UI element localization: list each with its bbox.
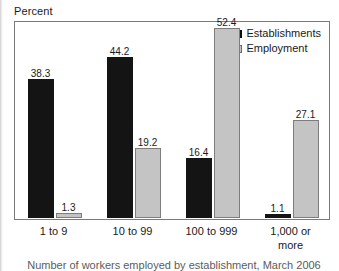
bar-group: 38.31.3 xyxy=(15,22,94,219)
bar-value-label: 19.2 xyxy=(138,137,157,148)
bar-value-label: 1.3 xyxy=(62,202,76,213)
bar: 44.2 xyxy=(107,57,133,218)
plot-area: Establishments Employment 38.31.344.219.… xyxy=(14,21,330,220)
x-tick-label: 1,000 or more xyxy=(251,224,330,252)
bar-group: 1.127.1 xyxy=(252,22,331,219)
bar: 16.4 xyxy=(186,158,212,218)
bar-value-label: 27.1 xyxy=(296,109,315,120)
bar: 52.4 xyxy=(214,28,240,218)
bar-value-label: 52.4 xyxy=(217,17,236,28)
x-tick-label: 100 to 999 xyxy=(172,224,251,238)
bar-value-label: 1.1 xyxy=(271,203,285,214)
y-axis-title: Percent xyxy=(14,5,53,18)
bar: 38.3 xyxy=(28,79,54,218)
x-tick-label: 10 to 99 xyxy=(93,224,172,238)
bar-value-label: 44.2 xyxy=(110,46,129,57)
x-axis-tick-labels: 1 to 910 to 99100 to 9991,000 or more xyxy=(14,224,330,260)
bar-groups: 38.31.344.219.216.452.41.127.1 xyxy=(15,22,329,219)
bar-value-label: 16.4 xyxy=(189,147,208,158)
bar: 1.3 xyxy=(56,213,82,218)
bar-chart: Percent Establishments Employment 38.31.… xyxy=(0,0,339,271)
bar: 19.2 xyxy=(135,148,161,218)
x-axis-caption: Number of workers employed by establishm… xyxy=(14,259,334,271)
bar-value-label: 38.3 xyxy=(31,68,50,79)
bar: 27.1 xyxy=(293,120,319,219)
bar: 1.1 xyxy=(265,214,291,218)
x-tick-label: 1 to 9 xyxy=(14,224,93,238)
bar-group: 16.452.4 xyxy=(173,22,252,219)
bar-group: 44.219.2 xyxy=(94,22,173,219)
